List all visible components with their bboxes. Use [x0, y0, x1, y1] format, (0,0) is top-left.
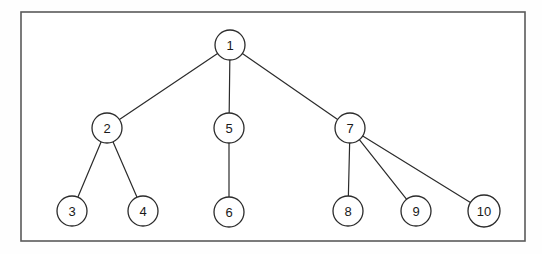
node-label: 7: [346, 121, 353, 136]
node-label: 5: [225, 121, 232, 136]
tree-node[interactable]: 2: [92, 113, 122, 143]
node-label: 10: [477, 204, 491, 219]
tree-node[interactable]: 5: [214, 113, 244, 143]
tree-node[interactable]: 1: [215, 30, 245, 60]
node-label: 4: [139, 204, 146, 219]
tree-node[interactable]: 9: [401, 196, 431, 226]
node-label: 3: [68, 204, 75, 219]
node-label: 6: [225, 205, 232, 220]
tree-node[interactable]: 7: [335, 113, 365, 143]
tree-node[interactable]: 10: [468, 195, 500, 227]
node-label: 1: [226, 38, 233, 53]
tree-edge: [229, 60, 230, 113]
tree-diagram-canvas: 12573468910: [0, 0, 542, 254]
tree-node[interactable]: 3: [57, 196, 87, 226]
node-label: 2: [103, 121, 110, 136]
tree-diagram-figure: 12573468910: [0, 0, 542, 254]
tree-node[interactable]: 6: [214, 197, 244, 227]
node-label: 8: [344, 204, 351, 219]
node-label: 9: [412, 204, 419, 219]
tree-node[interactable]: 8: [333, 196, 363, 226]
tree-node[interactable]: 4: [128, 196, 158, 226]
